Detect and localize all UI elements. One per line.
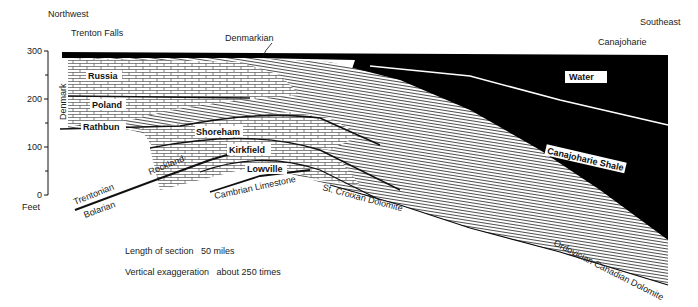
length-note: Length of section 50 miles — [120, 236, 235, 256]
exaggeration-label: Vertical exaggeration — [125, 267, 209, 277]
label-denmark: Denmark — [58, 83, 68, 120]
label-russia: Russia — [88, 71, 119, 81]
label-shoreham: Shoreham — [196, 127, 240, 137]
exaggeration-note: Vertical exaggeration about 250 times — [120, 257, 281, 277]
label-kirkfield: Kirkfield — [229, 145, 265, 155]
direction-northwest: Northwest — [48, 9, 89, 19]
label-water: Water — [569, 72, 594, 82]
direction-southeast: Southeast — [640, 17, 681, 27]
label-rathbun: Rathbun — [83, 122, 120, 132]
y-axis: 300 200 100 0 Feet — [22, 46, 48, 212]
length-value: 50 miles — [201, 246, 235, 256]
tick-0: 0 — [37, 190, 42, 200]
exaggeration-value: about 250 times — [217, 267, 281, 277]
cross-section-diagram: Northwest Trenton Falls Southeast Canajo… — [0, 0, 698, 307]
tick-300: 300 — [27, 46, 42, 56]
location-canajoharie: Canajoharie — [598, 37, 647, 47]
label-bolarian: Bolarian — [82, 199, 116, 220]
label-poland: Poland — [92, 100, 122, 110]
length-label: Length of section — [125, 246, 194, 256]
tick-200: 200 — [27, 94, 42, 104]
label-denmarkian: Denmarkian — [225, 33, 274, 43]
axis-unit-feet: Feet — [22, 202, 41, 212]
label-lowville: Lowville — [247, 164, 283, 174]
location-trenton-falls: Trenton Falls — [71, 28, 124, 38]
tick-100: 100 — [27, 142, 42, 152]
